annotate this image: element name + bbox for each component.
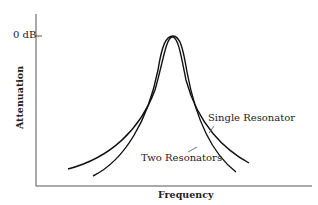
- resonator-response-plot: [0, 0, 318, 205]
- x-axis-label: Frequency: [158, 189, 213, 200]
- two-resonators-label: Two Resonators: [141, 152, 222, 163]
- zero-db-label: 0 dB: [13, 29, 36, 40]
- single-resonator-label: Single Resonator: [208, 112, 295, 123]
- y-axis-label: Attenuation: [14, 66, 25, 129]
- single-resonator-curve: [68, 37, 249, 169]
